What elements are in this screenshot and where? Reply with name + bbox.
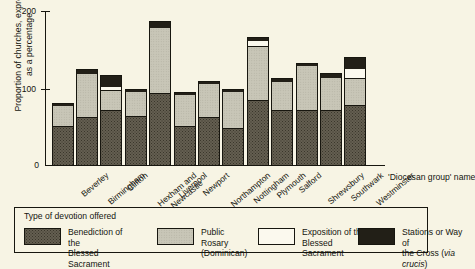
bar-nottingham[interactable]: [222, 89, 244, 166]
bar-segment-rosary: [345, 79, 365, 106]
legend-item-benediction[interactable]: Benediction of the Blessed Sacrament: [24, 227, 132, 269]
bar-segment-rosary: [199, 84, 219, 118]
bar-hexham-and-newcastle[interactable]: [125, 89, 147, 166]
bar-segment-rosary: [53, 106, 73, 126]
legend-item-exposition[interactable]: Exposition of the Blessed Sacrament: [258, 227, 370, 259]
legend-label-cross-tail: ): [424, 259, 427, 269]
y-tick-0: 0: [44, 165, 46, 166]
y-tick-100: 100: [41, 89, 50, 90]
bar-clifton[interactable]: [100, 75, 122, 166]
bar-plymouth[interactable]: [247, 37, 269, 166]
legend: Type of devotion offered Benediction of …: [14, 207, 428, 253]
bar-beverley[interactable]: [52, 103, 74, 166]
legend-item-rosary[interactable]: Public Rosary (Dominican): [157, 227, 249, 259]
bar-birmingham[interactable]: [76, 69, 98, 166]
bar-segment-benediction: [77, 118, 97, 166]
bar-segment-benediction: [199, 118, 219, 166]
legend-swatch-exposition: [258, 228, 295, 245]
legend-item-cross[interactable]: Stations or Way of the Cross (via crucis…: [358, 227, 468, 269]
legend-swatch-rosary: [157, 228, 194, 245]
bar-segment-benediction: [150, 94, 170, 166]
legend-label-rosary: Public Rosary (Dominican): [201, 227, 249, 259]
legend-label-cross: Stations or Way of the Cross (via crucis…: [402, 227, 468, 269]
bar-segment-benediction: [126, 117, 146, 166]
bar-segment-exposition: [345, 69, 365, 79]
bar-segment-rosary: [126, 92, 146, 118]
bar-segment-benediction: [223, 129, 243, 166]
bar-shrewsbury[interactable]: [296, 63, 318, 166]
bar-segment-benediction: [175, 127, 195, 167]
bar-segment-benediction: [101, 111, 121, 166]
bar-segment-cross: [101, 76, 121, 87]
bar-segment-rosary: [321, 78, 341, 112]
bar-segment-benediction: [297, 111, 317, 166]
bar-southwark[interactable]: [320, 73, 342, 166]
bar-northampton[interactable]: [198, 81, 220, 166]
bar-segment-rosary: [101, 91, 121, 111]
bar-westminster[interactable]: [344, 57, 366, 166]
bar-segment-benediction: [53, 127, 73, 166]
bar-segment-benediction: [248, 101, 268, 166]
legend-swatch-benediction: [24, 228, 61, 245]
bar-segment-rosary: [272, 82, 292, 112]
bar-segment-benediction: [321, 111, 341, 166]
bar-segment-rosary: [297, 66, 317, 111]
bar-segment-rosary: [248, 47, 268, 101]
bar-newport[interactable]: [174, 92, 196, 166]
bar-segment-rosary: [77, 74, 97, 118]
bar-liverpool[interactable]: [149, 21, 171, 166]
bar-segment-rosary: [223, 92, 243, 129]
legend-title: Type of devotion offered: [24, 211, 116, 221]
x-tick-label-clifton: Clifton: [126, 171, 150, 194]
bar-segment-rosary: [175, 95, 195, 127]
bar-segment-cross: [345, 58, 365, 69]
bar-salford[interactable]: [271, 78, 293, 166]
bar-segment-benediction: [345, 106, 365, 166]
y-axis-title: Proportion of churches, expressed as a p…: [13, 0, 34, 120]
bar-segment-benediction: [272, 111, 292, 166]
x-tick-label-beverley: Beverley: [79, 171, 110, 199]
bar-segment-rosary: [150, 28, 170, 94]
legend-swatch-cross: [358, 228, 395, 245]
plot-area: 200 100 0 BeverleyBirminghamCliftonHexha…: [45, 11, 385, 166]
y-tick-200: 200: [41, 11, 50, 12]
legend-label-benediction: Benediction of the Blessed Sacrament: [68, 227, 132, 269]
x-axis-title: 'Diocesan group' name: [388, 172, 475, 182]
